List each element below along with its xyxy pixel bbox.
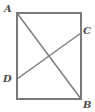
vertex-label-d: D: [3, 74, 12, 84]
vertex-label-a: A: [4, 4, 12, 14]
vertex-label-b: B: [83, 100, 91, 110]
vertex-label-c: C: [83, 26, 91, 36]
geometry-diagram: [0, 0, 95, 112]
geometry-figure: A C D B: [0, 0, 95, 112]
